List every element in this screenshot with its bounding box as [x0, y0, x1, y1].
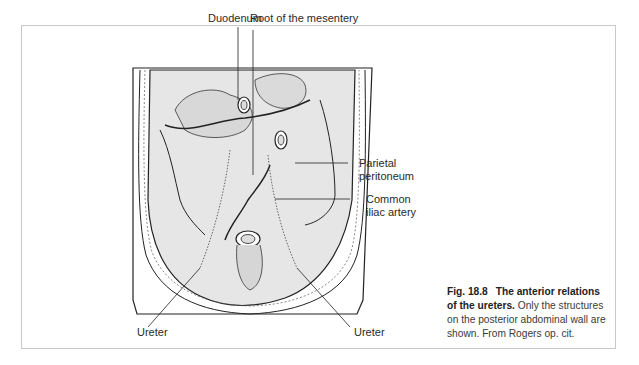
label-root-of-mesentery: Root of the mesentery	[250, 12, 358, 25]
figure-source: From Rogers op. cit.	[482, 328, 574, 339]
label-parietal-line1: Parietal	[359, 157, 396, 170]
label-iliac-line2: iliac artery	[366, 206, 416, 219]
label-ureter-left: Ureter	[137, 326, 168, 339]
label-iliac-line1: Common	[366, 193, 411, 206]
figure-number: Fig. 18.8	[447, 286, 488, 297]
label-ureter-right: Ureter	[354, 326, 385, 339]
label-parietal-line2: peritoneum	[359, 170, 414, 183]
figure-caption: Fig. 18.8The anterior relations of the u…	[447, 285, 612, 341]
